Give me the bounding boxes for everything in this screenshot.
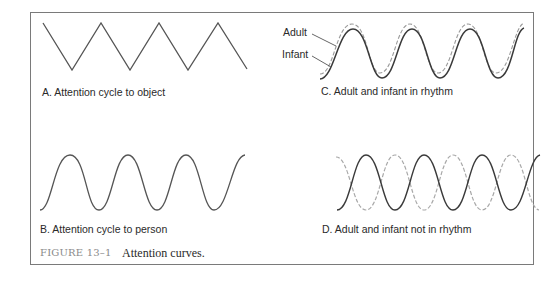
panel-b-curve — [40, 155, 245, 210]
figure-title: Attention curves. — [122, 247, 205, 259]
legend-adult-label: Adult — [283, 27, 307, 38]
panel-c-label: C. Adult and infant in rhythm — [321, 86, 453, 97]
panel-d-curves — [336, 155, 540, 210]
figure-number: FIGURE 13–1 — [40, 248, 112, 258]
adult-curve — [320, 23, 524, 74]
adult-curve-offbeat — [337, 155, 540, 210]
infant-leader-line — [312, 56, 331, 67]
panel-a-label: A. Attention cycle to object — [42, 87, 165, 98]
panel-c-curves — [312, 23, 524, 79]
infant-curve — [320, 28, 524, 79]
panel-b-label: B. Attention cycle to person — [40, 224, 167, 235]
panel-a-curve — [43, 23, 247, 70]
adult-leader-line — [312, 34, 336, 46]
panel-d-label: D. Adult and infant not in rhythm — [322, 224, 471, 235]
figure-artwork — [0, 0, 560, 283]
infant-curve-offbeat — [336, 155, 539, 210]
legend-infant-label: Infant — [282, 49, 308, 60]
